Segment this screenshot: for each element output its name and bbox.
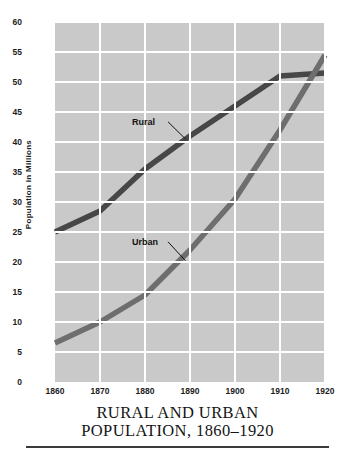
y-tick-label: 40 <box>0 138 22 147</box>
x-tick-label: 1890 <box>170 387 210 396</box>
gridline-vertical <box>324 22 326 382</box>
x-tick-label: 1920 <box>305 387 345 396</box>
y-axis-title: Population in Millions <box>24 105 33 265</box>
gridline-vertical <box>99 22 101 382</box>
y-tick-label: 15 <box>0 288 22 297</box>
y-tick-label: 0 <box>0 378 22 387</box>
gridline-vertical <box>279 22 281 382</box>
chart-caption: RURAL AND URBAN POPULATION, 1860–1920 <box>0 404 355 440</box>
chart-figure: Population in Millions 05101520253035404… <box>0 0 355 461</box>
leader-line-urban <box>168 242 186 261</box>
y-tick-label: 5 <box>0 348 22 357</box>
y-tick-label: 55 <box>0 48 22 57</box>
x-tick-label: 1860 <box>35 387 75 396</box>
series-label-rural: Rural <box>132 117 155 127</box>
y-tick-label: 20 <box>0 258 22 267</box>
x-tick-label: 1870 <box>80 387 120 396</box>
x-tick-label: 1910 <box>260 387 300 396</box>
y-tick-label: 25 <box>0 228 22 237</box>
series-label-urban: Urban <box>132 237 158 247</box>
y-tick-label: 50 <box>0 78 22 87</box>
gridline-vertical <box>144 22 146 382</box>
y-tick-label: 10 <box>0 318 22 327</box>
y-tick-label: 30 <box>0 198 22 207</box>
x-tick-label: 1880 <box>125 387 165 396</box>
gridline-vertical <box>234 22 236 382</box>
plot-area <box>55 22 325 382</box>
bottom-divider <box>26 446 329 448</box>
caption-line-2: POPULATION, 1860–1920 <box>0 422 355 440</box>
y-tick-label: 45 <box>0 108 22 117</box>
y-tick-label: 60 <box>0 18 22 27</box>
gridline-vertical <box>189 22 191 382</box>
leader-line-rural <box>168 122 186 139</box>
x-tick-label: 1900 <box>215 387 255 396</box>
caption-line-1: RURAL AND URBAN <box>0 404 355 422</box>
y-tick-label: 35 <box>0 168 22 177</box>
